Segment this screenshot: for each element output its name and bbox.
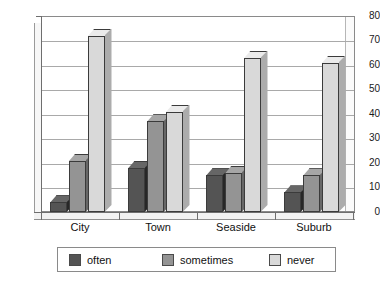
x-axis-line bbox=[34, 212, 355, 213]
legend-swatch-often bbox=[69, 254, 81, 266]
y-axis-line bbox=[41, 16, 42, 212]
bar-front-face bbox=[88, 36, 105, 212]
bar-front-face bbox=[244, 58, 261, 212]
bar-side-face bbox=[183, 105, 190, 212]
legend-entry-never: never bbox=[269, 253, 315, 267]
x-tick-mark bbox=[119, 212, 120, 220]
bar-side-face bbox=[339, 56, 346, 212]
y-tick-label: 60 bbox=[354, 60, 380, 70]
bar-seaside-never bbox=[244, 51, 268, 212]
legend-entry-sometimes: sometimes bbox=[162, 253, 233, 267]
bar-front-face bbox=[206, 175, 223, 212]
y-tick-label: 80 bbox=[354, 11, 380, 21]
legend-swatch-never bbox=[269, 254, 281, 266]
bar-chart: 80 70 60 50 40 30 20 10 0 bbox=[0, 0, 380, 284]
bar-front-face bbox=[50, 202, 67, 212]
bar-town-never bbox=[166, 105, 190, 212]
bar-front-face bbox=[166, 112, 183, 212]
legend-label-never: never bbox=[287, 254, 315, 266]
bar-front-face bbox=[147, 121, 164, 212]
chart-floor bbox=[34, 212, 355, 220]
legend-swatch-sometimes bbox=[162, 254, 174, 266]
y-tick-label: 50 bbox=[354, 84, 380, 94]
y-tick-label: 40 bbox=[354, 109, 380, 119]
bar-front-face bbox=[225, 173, 242, 212]
x-tick-mark bbox=[41, 212, 42, 220]
y-tick-label: 70 bbox=[354, 35, 380, 45]
bar-suburb-never bbox=[322, 56, 346, 212]
x-tick-mark bbox=[197, 212, 198, 220]
x-tick-label-seaside: Seaside bbox=[200, 221, 272, 234]
bar-front-face bbox=[303, 175, 320, 212]
legend-entry-often: often bbox=[69, 253, 111, 267]
x-tick-label-town: Town bbox=[122, 221, 194, 234]
x-tick-mark bbox=[275, 212, 276, 220]
y-tick-label: 20 bbox=[354, 158, 380, 168]
x-tick-label-suburb: Suburb bbox=[278, 221, 350, 234]
bar-front-face bbox=[322, 63, 339, 212]
x-tick-mark bbox=[353, 212, 354, 220]
plot-depth-wall bbox=[345, 17, 354, 211]
y-tick-label: 10 bbox=[354, 182, 380, 192]
bar-side-face bbox=[261, 51, 268, 212]
y-tick-label: 30 bbox=[354, 133, 380, 143]
legend-label-often: often bbox=[87, 254, 111, 266]
x-tick-label-city: City bbox=[44, 221, 116, 234]
legend-label-sometimes: sometimes bbox=[180, 254, 233, 266]
y-axis-depth-wall bbox=[34, 23, 41, 219]
bar-front-face bbox=[69, 161, 86, 212]
y-tick-label: 0 bbox=[354, 207, 380, 217]
bar-front-face bbox=[284, 192, 301, 212]
chart-legend: often sometimes never bbox=[57, 247, 336, 272]
bar-front-face bbox=[128, 168, 145, 212]
bar-city-never bbox=[88, 29, 112, 212]
bar-side-face bbox=[105, 29, 112, 212]
